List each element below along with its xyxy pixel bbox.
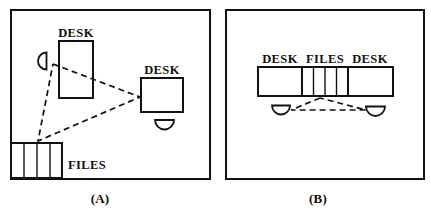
panel-a-desk-right [141,78,183,112]
panel-b-caption: (B) [309,191,327,206]
panel-b-desk-left [258,67,302,96]
figure-container: DESK DESK FILES (A) DESK F [0,0,431,213]
panel-b-files-label: FILES [306,52,344,66]
panel-a: DESK DESK FILES (A) [11,10,210,206]
diagram-canvas: DESK DESK FILES (A) DESK F [0,0,431,213]
panel-a-chair-right-icon [155,120,174,130]
panel-b-chair-left-icon [272,106,290,115]
panel-b-desk-right [348,67,393,96]
panel-a-chair-left-icon [38,53,47,70]
panel-b: DESK FILES DESK (B) [226,10,424,206]
panel-a-caption: (A) [91,191,110,206]
panel-a-desk-top-label: DESK [58,26,94,40]
panel-a-desk-top [59,41,93,98]
panel-b-sightlines [291,98,366,110]
panel-b-chair-right-icon [366,107,385,117]
panel-b-desk-right-label: DESK [352,52,388,66]
panel-b-desk-left-label: DESK [262,52,298,66]
panel-a-desk-right-label: DESK [144,63,180,77]
panel-a-files-label: FILES [68,158,106,172]
